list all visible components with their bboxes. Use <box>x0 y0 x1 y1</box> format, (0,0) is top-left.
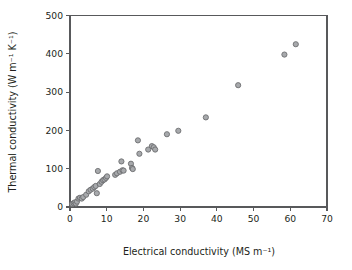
y-axis-tick-labels: 0100200300400500 <box>45 10 63 213</box>
data-point <box>95 168 100 173</box>
x-tick-label-30: 30 <box>174 213 186 224</box>
data-point <box>293 42 298 47</box>
x-tick-label-10: 10 <box>101 213 113 224</box>
y-tick-label-300: 300 <box>45 86 63 97</box>
scatter-chart-figure: 010203040506070 0100200300400500 Electri… <box>0 0 352 270</box>
chart-canvas: 010203040506070 0100200300400500 Electri… <box>0 0 352 270</box>
data-point <box>236 83 241 88</box>
data-point <box>153 147 158 152</box>
data-point <box>135 138 140 143</box>
x-axis-tick-labels: 010203040506070 <box>67 213 333 224</box>
data-point <box>94 191 99 196</box>
y-tick-label-200: 200 <box>45 125 63 136</box>
x-tick-label-70: 70 <box>321 213 333 224</box>
data-point <box>119 159 124 164</box>
y-axis-title: Thermal conductivity (W m⁻¹ K⁻¹) <box>7 31 18 193</box>
data-point <box>137 151 142 156</box>
data-point-group <box>70 42 299 207</box>
y-tick-label-100: 100 <box>45 163 63 174</box>
y-tick-label-400: 400 <box>45 48 63 59</box>
x-tick-label-0: 0 <box>67 213 73 224</box>
y-tick-label-500: 500 <box>45 10 63 21</box>
y-axis-ticks <box>66 16 70 208</box>
y-tick-label-0: 0 <box>57 201 63 212</box>
x-tick-label-50: 50 <box>248 213 260 224</box>
x-tick-label-40: 40 <box>211 213 223 224</box>
data-point <box>130 166 135 171</box>
data-point <box>164 132 169 137</box>
data-point <box>203 115 208 120</box>
x-tick-label-60: 60 <box>284 213 296 224</box>
x-axis-title: Electrical conductivity (MS m⁻¹) <box>123 246 275 257</box>
data-point <box>104 174 109 179</box>
data-point <box>121 168 126 173</box>
x-tick-label-20: 20 <box>138 213 150 224</box>
data-point <box>176 128 181 133</box>
data-point <box>282 52 287 57</box>
x-axis-ticks <box>70 207 327 211</box>
